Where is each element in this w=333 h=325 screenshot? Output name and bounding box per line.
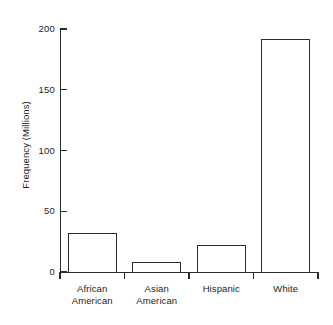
bar-chart-figure: 050100150200 AfricanAmericanAsianAmerica… bbox=[0, 0, 333, 325]
x-axis-tick bbox=[317, 272, 318, 279]
x-axis-label-asian-american: AsianAmerican bbox=[125, 283, 190, 306]
x-axis-label-line: American bbox=[60, 295, 125, 307]
x-axis-tick bbox=[59, 272, 60, 279]
x-axis-label-line: American bbox=[125, 295, 190, 307]
bar-hispanic bbox=[197, 245, 246, 272]
x-axis-label-line: Asian bbox=[125, 283, 190, 295]
x-axis-tick bbox=[253, 272, 254, 279]
y-axis-tick bbox=[60, 271, 67, 272]
y-axis-tick-label-text: 0 bbox=[15, 267, 55, 277]
x-axis-label-african-american: AfricanAmerican bbox=[60, 283, 125, 306]
plot-area: 050100150200 AfricanAmericanAsianAmerica… bbox=[0, 0, 333, 325]
y-axis-tick bbox=[60, 89, 67, 90]
y-axis-tick bbox=[60, 211, 67, 212]
y-axis-tick-label: 150 bbox=[10, 85, 55, 95]
x-axis-label-hispanic: Hispanic bbox=[189, 283, 254, 295]
bar-asian-american bbox=[132, 262, 181, 272]
y-axis-tick-label: 0 bbox=[10, 267, 55, 277]
bar-white bbox=[261, 39, 310, 273]
x-axis-tick bbox=[124, 272, 125, 279]
y-axis-tick-label: 50 bbox=[10, 206, 55, 216]
x-axis-tick bbox=[188, 272, 189, 279]
x-axis-label-line: African bbox=[60, 283, 125, 295]
y-axis-tick bbox=[60, 150, 67, 151]
bar-african-american bbox=[68, 233, 117, 273]
y-axis-tick-label-text: 200 bbox=[15, 24, 55, 34]
y-axis-tick bbox=[60, 28, 67, 29]
y-axis-tick-label: 100 bbox=[10, 146, 55, 156]
y-axis-tick-label: 200 bbox=[10, 24, 55, 34]
x-axis-label-line: Hispanic bbox=[189, 283, 254, 295]
x-axis-label-line: White bbox=[254, 283, 319, 295]
y-axis-title: Frequency (Millions) bbox=[21, 75, 31, 215]
x-axis-label-white: White bbox=[254, 283, 319, 295]
